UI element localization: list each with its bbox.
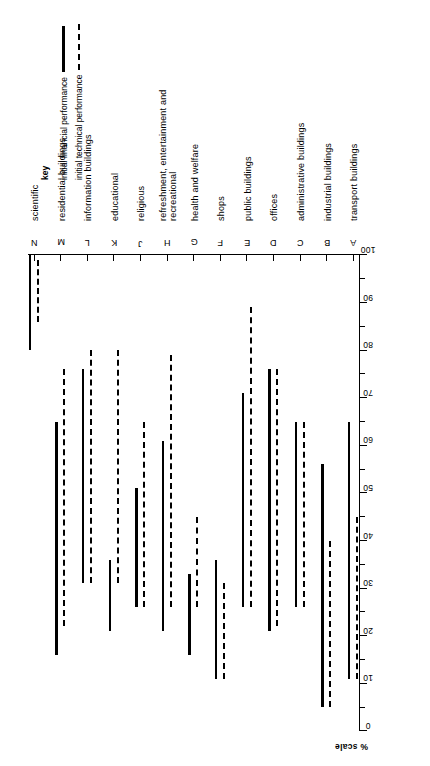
category-label-h: refreshment, entertainment and recreatio…	[158, 89, 178, 221]
category-label-c: administrative buildings	[296, 123, 306, 221]
category-axis-tick	[140, 255, 141, 261]
category-axis-tick	[273, 255, 274, 261]
value-axis-tick	[359, 564, 365, 565]
category-code-h: H	[164, 238, 171, 248]
bar-e-technical	[250, 307, 252, 607]
bar-j-financial	[135, 488, 138, 607]
bar-g-technical	[196, 517, 198, 607]
bar-m-technical	[63, 369, 65, 626]
bar-n-financial	[29, 255, 32, 350]
value-axis-tick	[359, 326, 365, 327]
category-code-e: E	[244, 238, 250, 248]
category-code-n: N	[31, 238, 38, 248]
category-code-k: K	[111, 238, 117, 248]
category-label-l: information buildings	[83, 134, 93, 221]
bar-h-financial	[162, 441, 165, 631]
value-axis-tick	[359, 611, 365, 612]
category-axis-tick	[113, 255, 114, 261]
value-axis-label: 100	[360, 245, 375, 255]
legend-entry-technical: initial technical performance	[73, 24, 84, 180]
value-axis-tick	[359, 469, 365, 470]
value-axis-label: 60	[363, 435, 373, 445]
value-axis-title: % scale	[335, 742, 368, 752]
bar-b-financial	[321, 464, 324, 707]
bar-d-financial	[268, 369, 271, 631]
bar-f-financial	[215, 560, 218, 679]
bar-j-technical	[143, 422, 145, 608]
category-axis-tick	[300, 255, 301, 261]
category-code-m: M	[57, 237, 65, 247]
category-label-g: health and welfare	[190, 144, 200, 221]
bar-g-financial	[188, 574, 191, 655]
bar-l-technical	[90, 350, 92, 583]
bar-h-technical	[170, 355, 172, 607]
bar-c-technical	[303, 422, 305, 608]
bar-a-technical	[356, 517, 358, 679]
category-label-k: educational	[110, 173, 120, 221]
value-axis-label: 30	[363, 578, 373, 588]
bar-d-technical	[276, 369, 278, 626]
category-axis-tick	[193, 255, 194, 261]
category-label-m: residential buildings	[57, 138, 67, 221]
category-axis-tick	[34, 255, 35, 261]
bar-c-financial	[295, 422, 298, 608]
value-axis-label: 80	[363, 340, 373, 350]
value-axis-tick	[359, 659, 365, 660]
value-axis-label: 40	[363, 531, 373, 541]
range-bar-chart: % scale key initial financial performanc…	[0, 0, 430, 766]
value-axis-label: 50	[363, 483, 373, 493]
category-code-c: C	[297, 238, 304, 248]
value-axis-tick	[359, 373, 365, 374]
category-label-j: religious	[136, 186, 146, 221]
bar-k-financial	[109, 560, 112, 631]
category-code-b: B	[323, 238, 329, 248]
category-axis-tick	[353, 255, 354, 261]
bar-n-technical	[37, 260, 39, 322]
category-label-a: transport buildings	[349, 144, 359, 221]
category-label-e: public buildings	[243, 156, 253, 221]
category-code-g: G	[190, 237, 197, 247]
category-label-d: offices	[269, 194, 279, 221]
legend-swatch-dashed	[78, 24, 80, 70]
figure-frame: % scale key initial financial performanc…	[0, 0, 430, 766]
category-axis-tick	[326, 255, 327, 261]
value-axis-label: 90	[363, 293, 373, 303]
value-axis-tick	[359, 707, 365, 708]
bar-e-financial	[242, 393, 245, 607]
category-label-f: shops	[216, 196, 226, 221]
category-code-l: L	[85, 238, 90, 248]
bar-k-technical	[117, 350, 119, 583]
category-axis-tick	[167, 255, 168, 261]
bar-m-financial	[55, 422, 58, 655]
value-axis-tick	[359, 516, 365, 517]
value-axis-label: 20	[363, 626, 373, 636]
value-axis-label: 70	[363, 388, 373, 398]
category-axis-tick	[220, 255, 221, 261]
legend-title: key	[40, 166, 50, 180]
category-axis-tick	[60, 255, 61, 261]
legend-swatch-solid	[62, 26, 65, 72]
bar-f-technical	[223, 583, 225, 678]
category-code-a: A	[350, 238, 356, 248]
value-axis-tick	[359, 421, 365, 422]
category-label-b: industrial buildings	[323, 143, 333, 221]
category-code-d: D	[270, 238, 277, 248]
rotated-chart-stage: % scale key initial financial performanc…	[0, 0, 430, 766]
category-code-j: J	[138, 239, 143, 249]
category-axis-tick	[246, 255, 247, 261]
category-code-f: F	[217, 238, 223, 248]
category-axis-tick	[87, 255, 88, 261]
value-axis-label: 0	[365, 721, 370, 731]
category-label-n: scientific	[30, 184, 40, 221]
bar-l-financial	[82, 369, 85, 583]
value-axis-tick	[359, 278, 365, 279]
value-axis-label: 10	[363, 673, 373, 683]
bar-b-technical	[329, 541, 331, 708]
bar-a-financial	[348, 422, 351, 679]
